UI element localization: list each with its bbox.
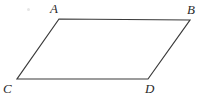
vertex-label-d: D [145,82,154,95]
paper-speck-artifact [27,8,30,11]
vertex-label-c: C [3,82,12,95]
parallelogram-outline [17,19,190,79]
vertex-label-b: B [187,3,195,16]
geometry-figure: A B D C [0,0,208,103]
vertex-label-a: A [50,2,58,15]
parallelogram-shape [0,0,208,103]
